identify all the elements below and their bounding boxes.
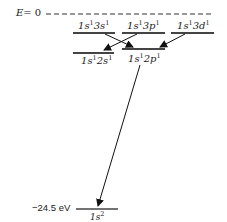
label-1s3s: 1s13s1 — [78, 19, 109, 31]
label-1s3p: 1s13p1 — [127, 19, 160, 31]
energy-level-diagram — [0, 0, 227, 222]
transition-3s-2p — [105, 34, 133, 47]
transition-3p-2s — [104, 34, 137, 50]
label-1s2s: 1s12s1 — [81, 54, 112, 66]
label-1s2p: 1s12p1 — [128, 52, 161, 64]
ground-energy-label: −24.5 eV — [32, 202, 70, 213]
label-1s2: 1s2 — [90, 210, 105, 222]
label-1s3d: 1s13d1 — [177, 19, 210, 31]
transition-2p-1s2 — [98, 65, 140, 206]
zero-energy-label: E= 0 — [16, 7, 41, 18]
transition-3d-2p — [160, 34, 185, 47]
